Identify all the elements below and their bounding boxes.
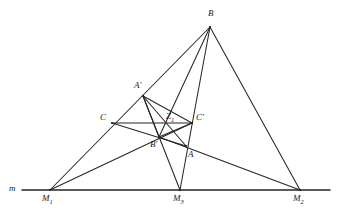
vertex-dot-Cprime [191, 122, 193, 124]
vertex-dot-Aprime [142, 95, 144, 97]
label-point-A: A [188, 150, 194, 159]
vertex-dot-M3 [179, 189, 181, 191]
vertex-dot-A [185, 145, 187, 147]
label-point-Z: Z1 [166, 112, 174, 121]
label-point-B: B [208, 9, 214, 18]
diagram-canvas [0, 0, 341, 219]
label-line-m: m [9, 184, 16, 193]
label-point-B-prime: B' [150, 140, 157, 149]
vertex-dot-M1 [49, 189, 51, 191]
seg-Aprime-Bprime [143, 96, 159, 137]
seg-C-A [112, 123, 186, 146]
vertex-dot-C [111, 122, 113, 124]
label-point-A-prime: A' [134, 81, 141, 90]
label-point-C: C [100, 113, 106, 122]
vertex-dot-B [209, 26, 211, 28]
label-point-M1: M1 [42, 194, 53, 203]
label-point-M2: M2 [293, 194, 304, 203]
geometry-figure: m M1 M2 M3 A B C A' B' C' Z1 [0, 0, 341, 219]
seg-M3-B [180, 27, 210, 190]
seg-M1-Cprime [50, 123, 192, 190]
seg-M2-B [210, 27, 300, 190]
seg-M1-B [50, 27, 210, 190]
label-point-C-prime: C' [196, 113, 204, 122]
seg-M2-Bprime [159, 137, 300, 190]
vertex-dot-M2 [299, 189, 301, 191]
vertex-dot-Bprime [158, 136, 160, 138]
label-point-M3: M3 [173, 194, 184, 203]
